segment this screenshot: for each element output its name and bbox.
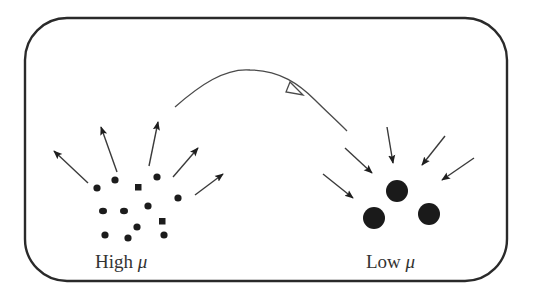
small-particles [93, 173, 181, 241]
mu-symbol: μ [405, 251, 416, 272]
inward-arrow [442, 158, 474, 180]
small-particle [124, 234, 131, 241]
high-mu-label: High μ [95, 251, 147, 272]
transition-arrowhead-icon [286, 82, 303, 95]
outward-arrow [101, 127, 117, 172]
small-particle [99, 208, 107, 215]
small-particle [159, 218, 166, 225]
large-particle [363, 207, 385, 229]
outward-arrow [149, 122, 158, 166]
inward-arrow [323, 174, 353, 198]
inward-arrow [387, 127, 393, 163]
transition-curve [175, 70, 347, 131]
outward-arrow [195, 174, 223, 195]
high-label-text: High [95, 251, 138, 272]
large-particle [418, 203, 440, 225]
low-mu-label: Low μ [366, 251, 415, 272]
inward-arrow [345, 148, 372, 173]
small-particle [93, 184, 100, 191]
low-label-text: Low [366, 251, 406, 272]
outward-arrow [54, 151, 88, 183]
small-particle [120, 208, 128, 215]
small-particle [160, 231, 167, 238]
small-particle [174, 194, 181, 201]
small-particle [111, 176, 118, 183]
small-particle [133, 223, 140, 230]
diagram-canvas: High μ Low μ [0, 0, 533, 298]
small-particle [153, 173, 160, 180]
outward-arrow [173, 148, 198, 177]
inward-arrow [422, 136, 445, 165]
large-particles [363, 180, 440, 229]
small-particle [144, 202, 151, 209]
small-particle [101, 231, 108, 238]
mu-symbol: μ [137, 251, 148, 272]
small-particle [135, 184, 142, 191]
large-particle [386, 180, 408, 202]
